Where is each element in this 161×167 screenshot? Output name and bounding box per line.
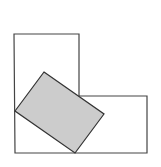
l-shape-diagram [0,0,161,167]
